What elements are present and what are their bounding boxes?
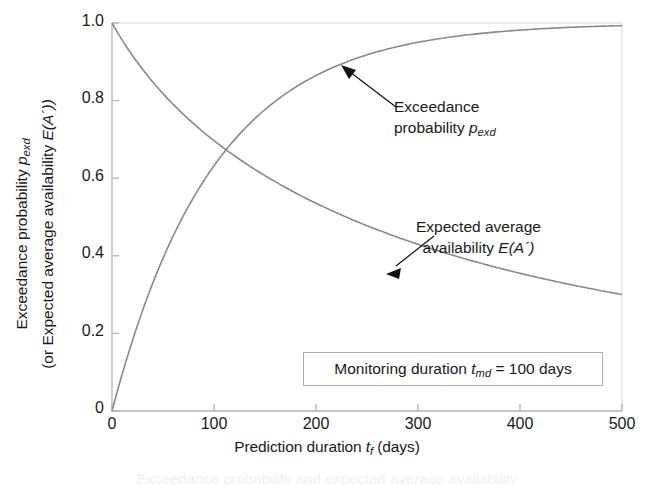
annotation-exceedance-line1: Exceedance	[394, 96, 496, 117]
y-tick-label-0.4: 0.4	[56, 244, 104, 262]
x-tick-label-0: 0	[82, 415, 142, 433]
x-axis-title: Prediction duration tf (days)	[0, 438, 654, 457]
annot-var-E: E	[498, 239, 508, 256]
x-tick-label-300: 300	[388, 415, 448, 433]
y-axis-title-line1: Exceedance probability pexd	[11, 38, 37, 430]
info-box-text: Monitoring duration tmd = 100 days	[334, 360, 571, 379]
x-tick-label-200: 200	[286, 415, 346, 433]
x-tick-label-100: 100	[184, 415, 244, 433]
y-axis-title-line2: (or Expected average availability E(A´))	[37, 38, 58, 430]
x-tick-label-500: 500	[592, 415, 652, 433]
y-tick-label-0.2: 0.2	[56, 322, 104, 340]
info-sub-md: md	[476, 366, 492, 378]
annotation-availability-line2: availability E(A´)	[416, 237, 541, 258]
y-title-post-Aprime: (A´))	[39, 99, 56, 130]
y-tick-label-0.8: 0.8	[56, 89, 104, 107]
y-tick-label-1.0: 1.0	[56, 12, 104, 30]
y-axis-ticks	[112, 23, 119, 411]
y-title-var-p: p	[13, 156, 30, 165]
y-axis-title: Exceedance probability pexd (or Expected…	[11, 38, 55, 430]
annotation-exceedance-probability: Exceedance probability pexd	[394, 96, 496, 143]
annotation-exceedance-line2: probability pexd	[394, 117, 496, 143]
y-tick-label-0.6: 0.6	[56, 167, 104, 185]
y-title-sub-exd: exd	[20, 138, 32, 156]
curve-expected-availability	[112, 23, 622, 295]
x-tick-label-400: 400	[490, 415, 550, 433]
annotation-arrow-exceedance	[341, 65, 396, 107]
x-axis-ticks	[112, 404, 622, 411]
annot-var-p: p	[469, 119, 478, 136]
annot-sub-exd: exd	[478, 126, 496, 138]
annot-post-Aprime: (A´)	[509, 239, 535, 256]
caption-sliver: Exceedance probability and expected aver…	[0, 470, 654, 485]
y-title-var-E: E	[39, 130, 56, 140]
annotation-availability-line1: Expected average	[416, 216, 541, 237]
annotation-expected-availability: Expected average availability E(A´)	[416, 216, 541, 258]
monitoring-duration-info-box: Monitoring duration tmd = 100 days	[303, 352, 603, 386]
figure-container: Exceedance probability pexd (or Expected…	[0, 0, 654, 485]
